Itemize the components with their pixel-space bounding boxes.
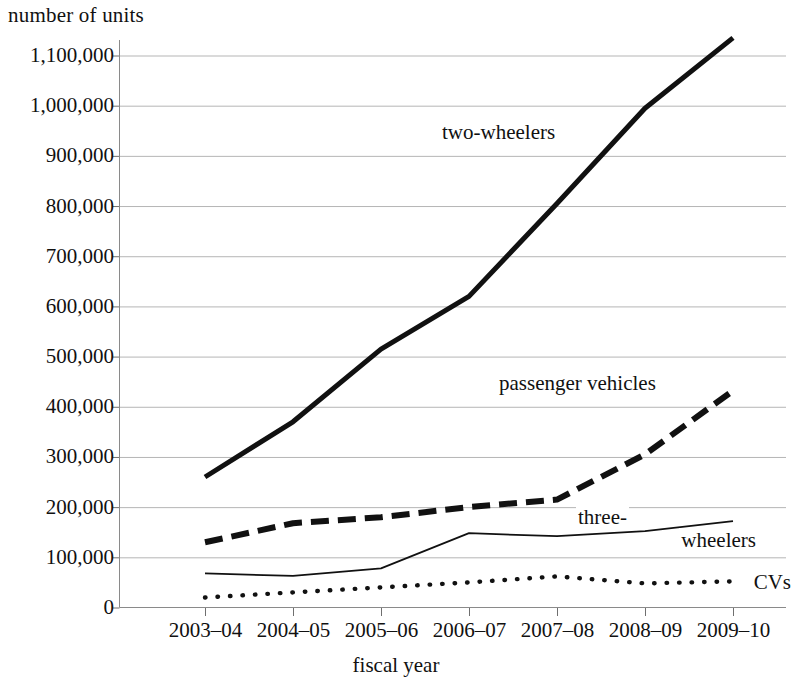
y-tick-label: 400,000 (2, 396, 114, 417)
y-tick-label: 100,000 (2, 547, 114, 568)
y-tick-label: 600,000 (2, 296, 114, 317)
series-line-two-wheelers (205, 38, 733, 477)
series-line-cvs (205, 576, 733, 597)
y-tick-label: 500,000 (2, 346, 114, 367)
series-line-passenger-vehicles (205, 391, 733, 543)
plot-area (0, 0, 792, 690)
series-line-three-wheelers (205, 521, 733, 576)
x-axis-title: fiscal year (0, 652, 792, 678)
series-label: wheelers (679, 528, 758, 552)
y-tick-label: 0 (2, 597, 114, 618)
y-tick-label: 700,000 (2, 246, 114, 267)
series-label: passenger vehicles (497, 371, 658, 395)
y-axis-tick-labels: 1,100,0001,000,000900,000800,000700,0006… (0, 0, 114, 690)
x-tick-label: 2009–10 (679, 618, 789, 642)
y-tick-label: 200,000 (2, 497, 114, 518)
x-axis-tick-marks (206, 608, 734, 617)
y-tick-label: 1,000,000 (2, 95, 114, 116)
series-label: three- (576, 505, 629, 529)
line-chart: number of units 1,100,0001,000,000900,00… (0, 0, 792, 690)
y-tick-label: 300,000 (2, 446, 114, 467)
y-tick-label: 900,000 (2, 145, 114, 166)
series-label: two-wheelers (440, 120, 557, 144)
series-label: CVs (752, 570, 792, 594)
y-tick-label: 800,000 (2, 196, 114, 217)
y-tick-label: 1,100,000 (2, 45, 114, 66)
